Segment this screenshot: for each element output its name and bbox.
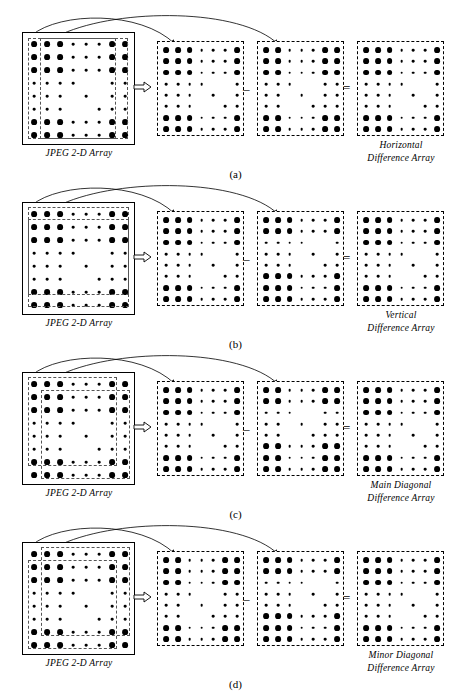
matrix-dot [163,625,169,631]
matrix-dot [334,58,340,64]
matrix-dot [288,468,291,471]
matrix-dot [412,94,415,97]
matrix-dot [85,631,88,634]
matrix-dot [336,94,339,97]
matrix-dot [122,577,128,583]
matrix-dot [165,423,168,426]
matrix-dot [424,286,427,289]
matrix-dot [200,241,203,244]
matrix-dot [288,593,291,596]
matrix-dot [275,466,281,472]
matrix-dot [98,566,101,569]
matrix-dot [388,94,391,97]
matrix-dot [412,264,415,267]
matrix-dot [224,71,227,74]
matrix-dot [175,625,181,631]
matrix-dot [276,105,279,108]
matrix-dot [44,577,50,583]
dot-grid [258,42,343,135]
matrix-dot [200,626,203,629]
matrix-dot [57,302,63,308]
matrix-dot [400,638,403,641]
matrix-dot [98,69,101,72]
matrix-dot [275,285,281,291]
matrix-dot [276,604,279,607]
matrix-dot [224,105,227,108]
matrix-dot [287,228,293,234]
difference-array-caption: VerticalDifference Array [333,309,469,335]
matrix-dot [336,434,339,437]
matrix-dot [288,389,291,392]
dot-grid [158,212,243,305]
matrix-dot [234,217,240,223]
matrix-dot [200,253,203,256]
matrix-dot [312,434,315,437]
matrix-dot [163,455,169,461]
matrix-dot [363,625,369,631]
matrix-dot [334,636,340,642]
matrix-dot [365,423,368,426]
matrix-dot [85,56,88,59]
matrix-dot [300,615,303,618]
matrix-dot [163,70,169,76]
matrix-dot [424,219,427,222]
matrix-dot [275,228,281,234]
matrix-dot [176,604,179,607]
operand-array-2 [257,41,344,136]
matrix-dot [72,56,75,59]
matrix-dot [72,43,75,46]
matrix-dot [175,387,181,393]
matrix-dot [375,636,381,642]
matrix-dot [376,593,379,596]
matrix-dot [334,614,340,620]
matrix-dot [263,455,269,461]
matrix-dot [224,456,227,459]
matrix-dot [163,58,169,64]
matrix-dot [263,568,269,574]
matrix-dot [400,241,403,244]
matrix-dot [376,94,379,97]
matrix-dot [265,434,268,437]
matrix-dot [109,54,115,60]
matrix-dot [33,592,36,595]
matrix-dot [336,604,339,607]
matrix-dot [424,241,427,244]
matrix-dot [163,410,169,416]
matrix-dot [124,618,127,621]
matrix-dot [212,434,215,437]
matrix-dot [288,581,291,584]
matrix-dot [365,105,368,108]
matrix-dot [98,448,101,451]
matrix-dot [46,278,49,281]
matrix-dot [72,566,75,569]
matrix-dot [365,264,368,267]
difference-array-caption-line1: Vertical [333,309,469,322]
matrix-dot [265,423,268,426]
matrix-dot [324,94,327,97]
matrix-dot [59,252,62,255]
matrix-dot [44,211,50,217]
matrix-dot [57,289,63,295]
matrix-dot [122,459,128,465]
matrix-dot [200,411,203,414]
matrix-dot [188,593,191,596]
matrix-dot [400,423,403,426]
matrix-dot [124,82,127,85]
matrix-dot [376,105,379,108]
matrix-dot [322,126,328,132]
matrix-dot [163,115,169,121]
matrix-dot [234,70,240,76]
matrix-dot [176,264,179,267]
equals-operator: = [343,421,350,434]
matrix-dot [98,278,101,281]
matrix-dot [375,455,381,461]
matrix-dot [334,444,340,450]
matrix-dot [33,422,36,425]
matrix-dot [300,241,303,244]
matrix-dot [288,49,291,52]
matrix-dot [312,626,315,629]
matrix-dot [200,570,203,573]
matrix-dot [387,217,393,223]
matrix-dot [322,398,328,404]
matrix-dot [44,302,50,308]
